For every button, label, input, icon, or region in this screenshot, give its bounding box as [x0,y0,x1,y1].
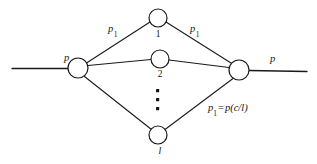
ellipsis-dot-1 [156,89,159,92]
edge-branch2-hubright [169,60,229,68]
flow-label-p1-right-text: p [190,23,195,34]
flow-label-p-left-text: p [64,52,69,63]
node-label-2: 2 [152,70,168,80]
node-branch-l [149,126,167,144]
ellipsis-dot-3 [156,107,159,110]
equation-rhs: p(c/l) [225,102,248,113]
flow-label-p1-right: p1 [190,24,199,37]
diagram-canvas [0,0,317,164]
flow-label-p1-left-text: p [108,23,113,34]
flow-label-p-right: p [270,54,275,65]
flow-label-p1-left: p1 [108,24,117,37]
equation-operator: = [217,102,225,113]
node-label-l: l [152,146,168,156]
node-branch-2 [151,50,169,68]
flow-label-p-left: p [64,53,69,64]
equation-lhs-subscript: 1 [213,109,217,118]
ellipsis-dot-2 [156,98,159,101]
edge-hubleft-branchl [85,77,152,130]
node-branch-1 [149,9,167,27]
flow-label-p-right-text: p [270,53,275,64]
edge-hubleft-branch2 [88,60,151,66]
outflow-trunk-line [249,71,307,72]
node-hub-right [229,60,249,80]
node-hub-left [68,58,88,78]
network-diagram: p p p1 p1 1 2 l p1=p(c/l) [0,0,317,164]
equation-label: p1=p(c/l) [208,103,248,116]
node-label-1: 1 [150,30,166,40]
flow-label-p1-left-subscript: 1 [114,30,118,39]
edge-hubleft-branch1 [87,22,151,63]
flow-label-p1-right-subscript: 1 [196,30,200,39]
